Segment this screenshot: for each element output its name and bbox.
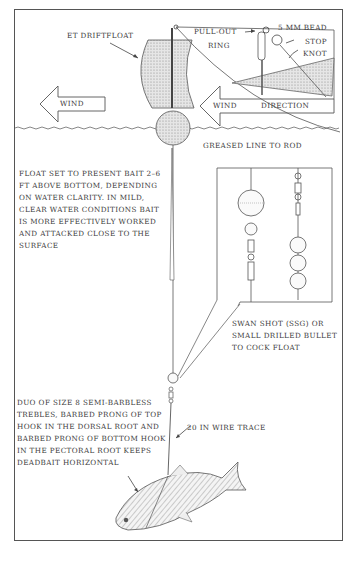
label-greased-line: GREASED LINE TO ROD bbox=[203, 140, 302, 152]
label-stop-knot-1: STOP bbox=[305, 36, 327, 48]
inset-shot-detail bbox=[217, 168, 332, 306]
label-trebles: DUO OF SIZE 8 SEMI-BARBLESS TREBLES, BAR… bbox=[17, 397, 169, 469]
label-float-setting: FLOAT SET TO PRESENT BAIT 2–6 FT ABOVE B… bbox=[19, 168, 169, 252]
label-swan-shot: SWAN SHOT (SSG) OR SMALL DRILLED BULLET … bbox=[232, 318, 342, 354]
swan-shot bbox=[168, 373, 178, 383]
label-pull-out-ring-2: RING bbox=[208, 40, 230, 52]
label-bead: 5 MM BEAD bbox=[278, 22, 327, 34]
label-wind-left: WIND bbox=[60, 98, 84, 110]
label-wind-direction: DIRECTION bbox=[261, 100, 309, 112]
driftfloat-pointer bbox=[110, 43, 138, 58]
label-wind-direction-word: WIND bbox=[213, 100, 237, 112]
label-pull-out-ring-1: PULL-OUT bbox=[194, 26, 237, 38]
label-wire-trace: 20 IN WIRE TRACE bbox=[187, 422, 266, 434]
deadbait-fish bbox=[116, 462, 246, 530]
label-stop-knot-2: KNOT bbox=[303, 48, 327, 60]
ball-float bbox=[156, 111, 190, 145]
rig-illustration bbox=[0, 0, 353, 586]
swivel bbox=[169, 387, 173, 403]
label-driftfloat: ET DRIFTFLOAT bbox=[67, 30, 134, 42]
